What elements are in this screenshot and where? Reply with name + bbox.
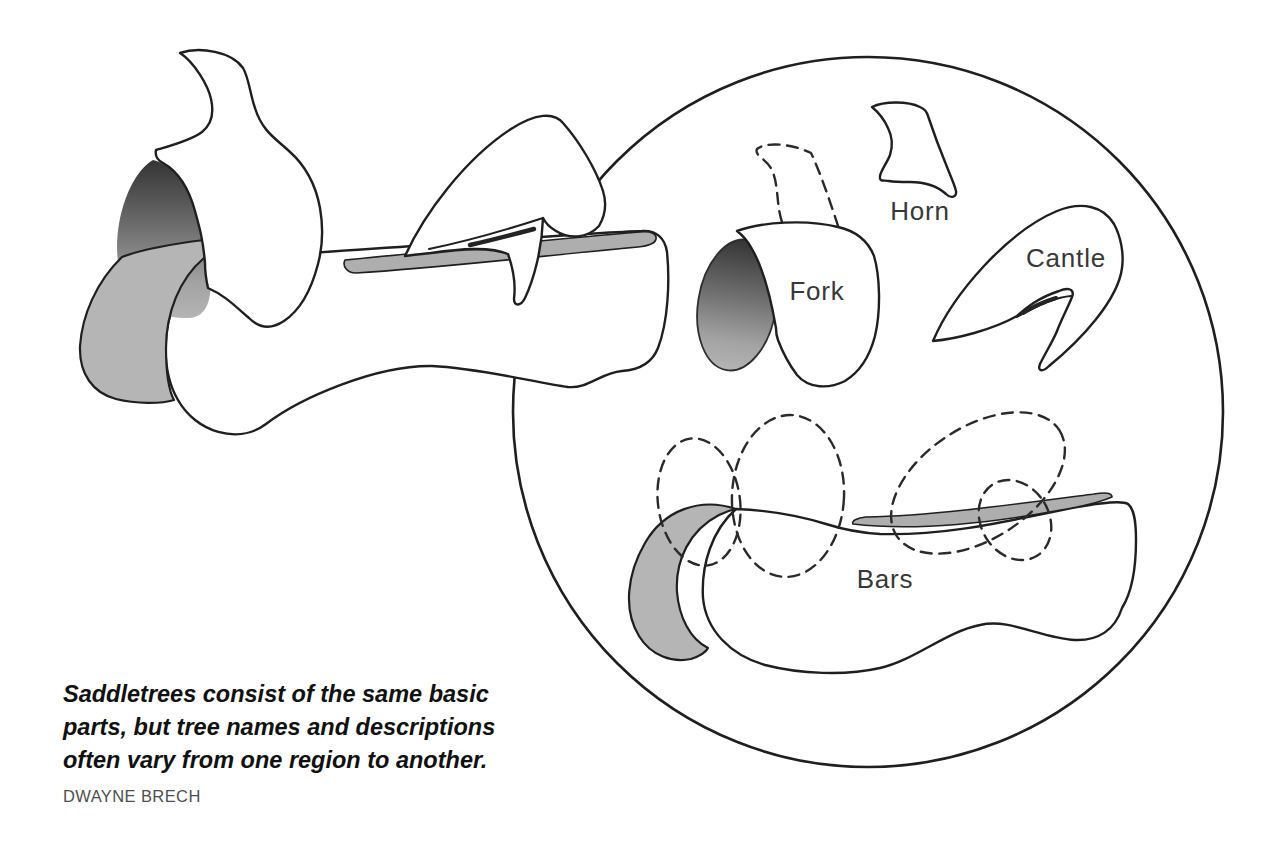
assembled-saddletree [80, 50, 668, 434]
caption-credit: DWAYNE BRECH [63, 787, 523, 806]
caption-line-1: Saddletrees consist of the same basic [63, 678, 523, 711]
caption-line-3: often vary from one region to another. [63, 744, 523, 777]
label-horn: Horn [890, 196, 950, 226]
label-fork: Fork [789, 276, 844, 306]
figure-page: Horn Fork Cantle Bars Saddletrees consis… [0, 0, 1266, 842]
caption-line-2: parts, but tree names and descriptions [63, 711, 523, 744]
label-cantle: Cantle [1026, 243, 1106, 273]
label-bars: Bars [857, 564, 914, 594]
figure-caption: Saddletrees consist of the same basic pa… [63, 678, 523, 806]
